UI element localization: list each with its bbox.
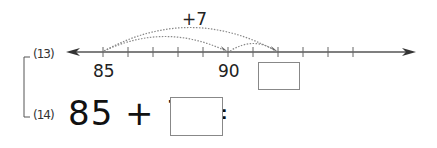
number-line-answer-box[interactable] bbox=[258, 62, 300, 90]
problem-13-label: (13) bbox=[33, 47, 54, 61]
tick-label-85: 85 bbox=[93, 61, 115, 81]
equation-answer-box[interactable] bbox=[170, 97, 223, 136]
problem-14-label: (14) bbox=[33, 108, 54, 122]
jump-label: +7 bbox=[182, 9, 207, 29]
worksheet: (13) +7 85 90 (14) 85 + 7 = bbox=[0, 0, 437, 148]
tick-label-90: 90 bbox=[218, 61, 240, 81]
